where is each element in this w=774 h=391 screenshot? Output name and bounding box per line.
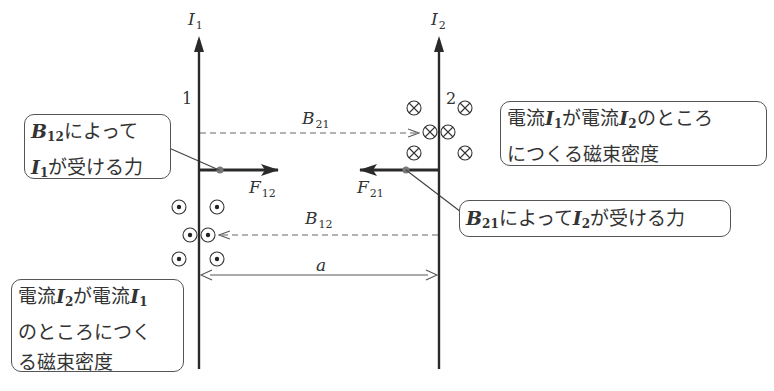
callout-force-on-i1: B12によって I1が受ける力: [24, 114, 171, 179]
cross-circle-icon: [458, 146, 472, 160]
leader-line: [406, 170, 461, 212]
leader-line: [169, 148, 219, 170]
callout-field-by-i2: 電流I2が電流I1 のところにつく る磁束密度: [11, 279, 184, 372]
force-label-f21: F21: [357, 177, 384, 200]
wire-number-2: 2: [446, 89, 456, 108]
callout-force-on-i2: B21によってI2が受ける力: [459, 200, 731, 237]
callout-line: 電流I1が電流I2のところ: [507, 103, 760, 139]
cross-circle-icon: [423, 125, 437, 139]
wire-number-1: 1: [182, 89, 192, 108]
dot-circle-icon: [183, 228, 197, 242]
callout-line: のところにつく: [18, 317, 177, 347]
field-label-b12: B12: [305, 208, 333, 231]
cross-circle-icon: [441, 125, 455, 139]
callout-line: る磁束密度: [18, 347, 177, 377]
cross-circle-icon: [407, 101, 421, 115]
field-label-b21: B21: [302, 108, 330, 131]
dot-circle-icon: [210, 252, 224, 266]
force-arrow-f21: [360, 167, 439, 174]
force-arrow-f12: [199, 167, 278, 174]
callout-line: B12によって: [31, 116, 164, 152]
cross-circle-icon: [407, 146, 421, 160]
cross-circle-icon: [458, 101, 472, 115]
dot-circle-icon: [210, 200, 224, 214]
distance-label: a: [316, 255, 326, 275]
callout-line: につくる磁束密度: [507, 139, 760, 169]
dot-circle-icon: [201, 228, 215, 242]
dot-circle-icon: [172, 200, 186, 214]
callout-line: I1が受ける力: [31, 152, 164, 188]
current-label-i1: I1: [188, 9, 203, 32]
current-label-i2: I2: [431, 9, 446, 32]
force-label-f12: F12: [249, 177, 276, 200]
dot-circle-icon: [172, 252, 186, 266]
callout-line: 電流I2が電流I1: [18, 281, 177, 317]
callout-field-by-i1: 電流I1が電流I2のところ につくる磁束密度: [500, 101, 767, 166]
